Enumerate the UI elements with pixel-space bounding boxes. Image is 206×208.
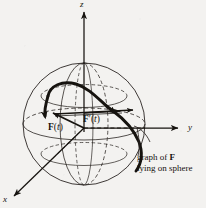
curve-F-arrow-left (45, 96, 48, 116)
caption-line-1: graph of F (137, 152, 175, 162)
meridian-left-front (60, 63, 84, 185)
figure-caption: graph of F lying on sphere (137, 152, 193, 175)
vector-calculus-figure: z y x F(t) F′(t) graph of F lying on sph… (0, 0, 206, 208)
latitude-lower-back (41, 143, 127, 155)
y-axis-label: y (188, 122, 192, 132)
latitude-lower-front (41, 154, 127, 166)
x-axis-interior-dashed (50, 128, 84, 161)
figure-canvas (0, 0, 206, 208)
vector-F-prime-label: F′(t) (83, 114, 100, 125)
z-axis-label: z (80, 0, 84, 9)
x-axis-label: x (3, 194, 7, 204)
vector-F-label: F(t) (48, 122, 63, 133)
caption-line-2: lying on sphere (137, 163, 193, 173)
